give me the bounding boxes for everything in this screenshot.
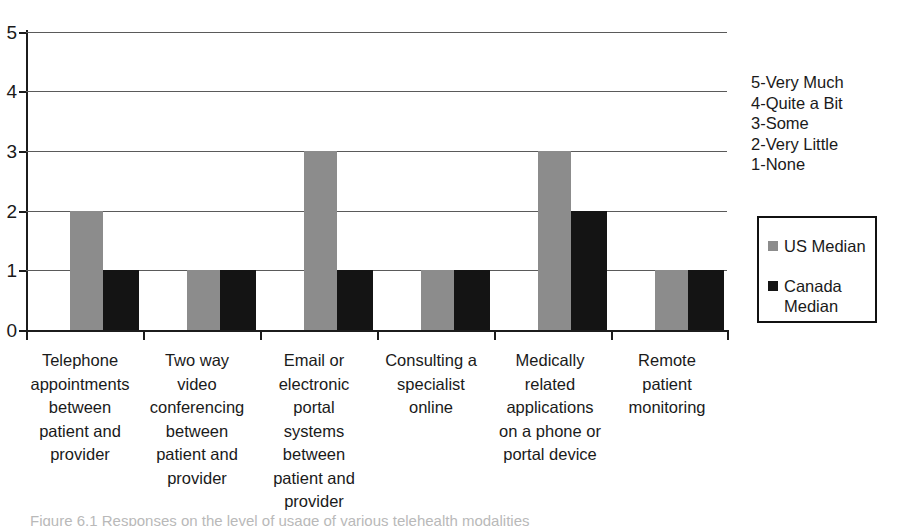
y-tick-mark-5 [19,32,26,34]
category-label-line: provider [254,490,374,514]
category-label-line: video [137,373,257,397]
scale-key-item-5: 5-Very Much [751,72,844,93]
category-label-line: portal device [486,443,614,467]
category-label-line: related [486,373,614,397]
legend-label-us-median: US Median [784,236,866,256]
category-label-2: Email orelectronicportalsystemsbetweenpa… [254,349,374,514]
category-label-line: patient and [137,443,257,467]
bar-group-5 [655,32,724,330]
bar-group-0 [70,32,139,330]
category-label-line: between [137,420,257,444]
category-label-5: Remotepatientmonitoring [607,349,727,420]
bar-canada-median-2 [337,270,373,330]
bar-canada-median-1 [220,270,256,330]
figure-caption: Figure 6.1 Responses on the level of usa… [30,512,730,526]
bar-canada-median-4 [571,211,607,330]
category-label-line: provider [137,467,257,491]
category-label-line: systems [254,420,374,444]
category-label-line: portal [254,396,374,420]
bar-group-4 [538,32,607,330]
y-tick-mark-3 [19,151,26,153]
bar-us-median-1 [187,270,220,330]
x-tick-mark-3 [377,332,379,340]
category-label-line: appointments [20,373,140,397]
bar-canada-median-3 [454,270,490,330]
legend-label-canada-median: Canada Median [784,276,842,316]
category-label-line: patient [607,373,727,397]
bar-group-1 [187,32,256,330]
x-tick-mark-5 [611,332,613,340]
category-label-line: Consulting a [371,349,491,373]
category-label-line: Medically [486,349,614,373]
x-tick-mark-0 [26,332,28,340]
y-axis-labels: 5 4 3 2 1 0 [0,0,17,527]
bar-us-median-5 [655,270,688,330]
y-tick-label-4: 4 [1,82,17,101]
legend-swatch-us-median-icon [768,241,778,251]
bar-canada-median-5 [688,270,724,330]
category-label-4: Medicallyrelatedapplicationson a phone o… [486,349,614,467]
category-label-line: Telephone [20,349,140,373]
category-label-line: electronic [254,373,374,397]
category-label-line: provider [20,443,140,467]
scale-key-item-3: 3-Some [751,113,844,134]
category-label-0: Telephoneappointmentsbetweenpatient andp… [20,349,140,467]
y-tick-label-3: 3 [1,142,17,161]
bar-us-median-2 [304,151,337,330]
y-tick-label-2: 2 [1,202,17,221]
category-label-line: patient and [254,467,374,491]
category-label-1: Two wayvideoconferencingbetweenpatient a… [137,349,257,490]
bar-us-median-3 [421,270,454,330]
y-tick-mark-0 [19,330,26,332]
category-label-line: Two way [137,349,257,373]
x-tick-mark-4 [494,332,496,340]
category-label-line: on a phone or [486,420,614,444]
category-label-line: online [371,396,491,420]
bar-us-median-0 [70,211,103,330]
category-label-line: patient and [20,420,140,444]
y-tick-label-5: 5 [1,23,17,42]
bar-us-median-4 [538,151,571,330]
x-tick-mark-1 [143,332,145,340]
scale-key-item-2: 2-Very Little [751,134,844,155]
category-label-line: between [254,443,374,467]
category-label-line: conferencing [137,396,257,420]
category-label-line: monitoring [607,396,727,420]
plot-area [26,32,727,330]
legend-label-canada-median-line1: Canada [784,277,842,295]
legend-swatch-canada-median-icon [768,281,778,291]
y-tick-label-0: 0 [1,321,17,340]
category-label-line: specialist [371,373,491,397]
category-label-line: Email or [254,349,374,373]
scale-key-item-1: 1-None [751,154,844,175]
bar-group-2 [304,32,373,330]
scale-key: 5-Very Much 4-Quite a Bit 3-Some 2-Very … [751,72,844,175]
category-label-line: between [20,396,140,420]
x-tick-mark-2 [260,332,262,340]
y-tick-mark-1 [19,270,26,272]
legend-item-canada-median: Canada Median [768,276,842,316]
chart-legend: US Median Canada Median [757,216,877,323]
category-label-3: Consulting aspecialistonline [371,349,491,420]
bar-canada-median-0 [103,270,139,330]
chart-figure: 5 4 3 2 1 0 [0,0,903,527]
legend-item-us-median: US Median [768,236,866,256]
scale-key-item-4: 4-Quite a Bit [751,93,844,114]
category-label-line: applications [486,396,614,420]
x-tick-mark-6 [727,332,729,340]
bar-group-3 [421,32,490,330]
legend-label-canada-median-line2: Median [784,297,838,315]
y-tick-label-1: 1 [1,261,17,280]
category-label-line: Remote [607,349,727,373]
y-tick-mark-2 [19,211,26,213]
y-tick-mark-4 [19,91,26,93]
